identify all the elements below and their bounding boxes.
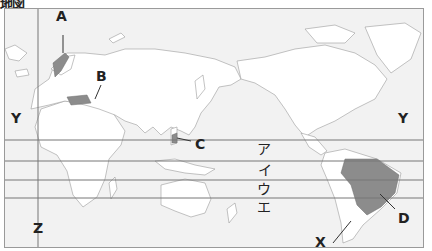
iceland-landmass [15,69,29,77]
greenland-left-landmass [5,45,27,61]
marker-d-label: D [398,211,410,225]
latitude-label-i: イ [258,163,272,177]
north-america-landmass [237,45,387,137]
highlight-b-turkey [67,95,91,105]
meridian-z-label: Z [33,221,43,235]
side-label-left-y: Y [11,111,21,125]
novaya-zemlya-landmass [109,33,125,43]
map-graphic [5,9,424,248]
latitude-label-a: ア [257,142,271,156]
marker-b-label: B [96,69,107,83]
canadian-arctic-islands [305,25,355,43]
new-zealand-landmass [227,203,237,223]
side-label-right-y: Y [398,111,408,125]
marker-a-label: A [56,9,67,23]
marker-x-label: X [315,235,326,248]
world-map: A B C D X Y Y Z ア イ ウ エ [4,8,424,248]
marker-c-label: C [195,137,205,151]
central-america-landmass [301,133,327,155]
latitude-label-e: エ [257,200,271,214]
highlight-c-philippines [172,133,177,143]
latitude-label-u: ウ [257,182,271,196]
